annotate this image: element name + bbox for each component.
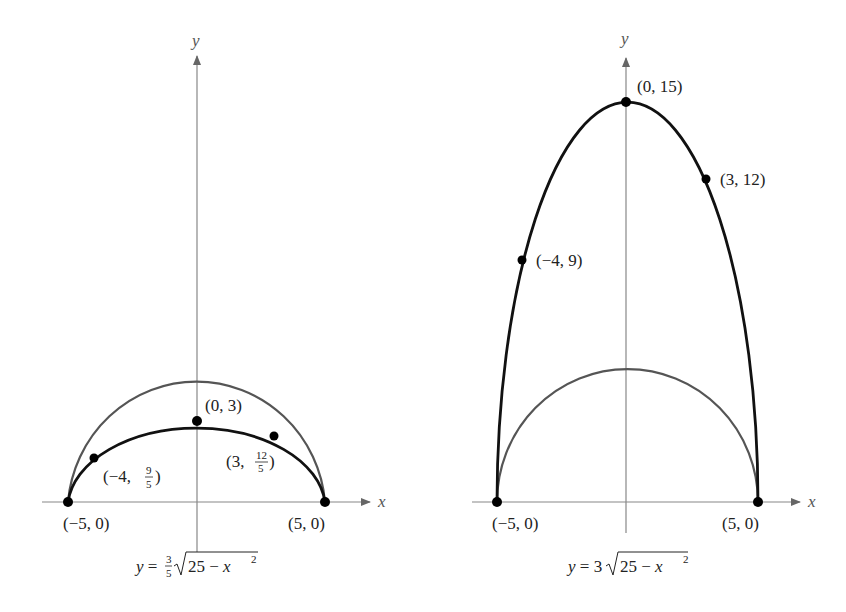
label-5-0: (5, 0) xyxy=(722,514,759,533)
x-axis-label: x xyxy=(807,492,816,511)
svg-text:25 − x: 25 − x xyxy=(188,557,231,576)
point-neg5-0 xyxy=(63,497,73,507)
y-axis-label: y xyxy=(619,29,629,48)
point-neg4-9over5 xyxy=(90,454,99,463)
svg-text:5: 5 xyxy=(258,462,264,474)
svg-text:y = 3: y = 3 xyxy=(566,557,602,576)
svg-text:2: 2 xyxy=(251,553,257,565)
left-equation: y = 3 5 25 − x 2 xyxy=(134,552,258,579)
svg-text:9: 9 xyxy=(146,464,152,476)
svg-text:5: 5 xyxy=(166,567,172,579)
point-3-12 xyxy=(702,175,711,184)
label-neg5-0: (−5, 0) xyxy=(63,514,109,533)
svg-text:5: 5 xyxy=(146,478,152,490)
label-neg4-9over5: (−4, 9 5 ) xyxy=(103,464,161,490)
x-axis-label: x xyxy=(377,492,386,511)
point-neg5-0 xyxy=(492,497,502,507)
svg-text:25 − x: 25 − x xyxy=(620,557,663,576)
svg-text:2: 2 xyxy=(683,553,689,565)
svg-text:(−4,: (−4, xyxy=(103,467,131,486)
figure: x y (−5, 0) (0, 3) (5, 0) (−4, 9 5 ) (3,… xyxy=(0,0,846,612)
label-0-15: (0, 15) xyxy=(637,77,682,96)
svg-text:): ) xyxy=(155,467,161,486)
point-0-15 xyxy=(621,97,631,107)
reference-semicircle xyxy=(497,369,758,502)
svg-text:3: 3 xyxy=(166,553,172,565)
label-3-12over5: (3, 12 5 ) xyxy=(226,449,275,474)
svg-text:12: 12 xyxy=(256,449,267,461)
svg-text:y =: y = xyxy=(134,557,157,576)
right-chart: x y (−5, 0) (−4, 9) (0, 15) (3, 12) (5, … xyxy=(472,29,816,576)
label-3-12: (3, 12) xyxy=(720,170,765,189)
scaled-semicircle xyxy=(497,102,758,502)
label-0-3: (0, 3) xyxy=(205,396,242,415)
label-neg4-9: (−4, 9) xyxy=(536,251,582,270)
point-0-3 xyxy=(192,416,202,426)
y-axis-label: y xyxy=(190,31,200,50)
point-3-12over5 xyxy=(270,432,279,441)
label-neg5-0: (−5, 0) xyxy=(492,514,538,533)
point-neg4-9 xyxy=(518,256,527,265)
svg-text:(3,: (3, xyxy=(226,452,244,471)
left-chart: x y (−5, 0) (0, 3) (5, 0) (−4, 9 5 ) (3,… xyxy=(42,31,386,579)
label-5-0: (5, 0) xyxy=(288,514,325,533)
svg-text:): ) xyxy=(269,452,275,471)
point-5-0 xyxy=(753,497,763,507)
right-equation: y = 3 25 − x 2 xyxy=(566,552,689,576)
point-5-0 xyxy=(320,497,330,507)
